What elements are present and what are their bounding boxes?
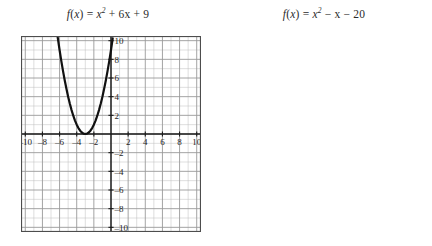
y-axis-tick-label: –6 xyxy=(114,185,125,195)
y-axis-tick-label: –2 xyxy=(114,148,124,158)
x-axis-tick-label: –10 xyxy=(21,137,33,147)
x-axis-tick-label: –4 xyxy=(71,137,82,147)
graph-panel-left: f(x) = x2 + 6x + 9 –10–8–6–4–22468101086… xyxy=(0,0,216,246)
panel-left-title-equals: = xyxy=(87,8,94,20)
y-axis-tick-label: –10 xyxy=(114,223,129,232)
y-axis-tick-label: –4 xyxy=(114,167,125,177)
y-axis-tick-label: 10 xyxy=(115,36,125,46)
graph-panel-right: f(x) = x2 − x − 20 –15–12–9–6–336912153–… xyxy=(216,0,432,246)
x-axis-tick-label: 6 xyxy=(160,137,165,147)
y-axis-tick-label: 2 xyxy=(115,111,120,121)
x-axis-tick-label: 8 xyxy=(177,137,182,147)
y-axis-tick-label: 4 xyxy=(115,92,120,102)
x-axis-tick-label: –8 xyxy=(37,137,48,147)
panel-left-title-term1-exp: 2 xyxy=(102,6,106,15)
panel-right-title-equals: = xyxy=(303,8,310,20)
panel-right-title-close: ) xyxy=(296,8,300,20)
x-axis-tick-label: 2 xyxy=(126,137,130,147)
x-axis-tick-label: –2 xyxy=(88,137,98,147)
x-axis-tick-label: 10 xyxy=(192,137,201,147)
panel-right-title: f(x) = x2 − x − 20 xyxy=(216,6,432,20)
panel-right-title-rest: − x − 20 xyxy=(325,8,365,20)
panel-right-title-term1-exp: 2 xyxy=(318,6,322,15)
x-axis-tick-label: –6 xyxy=(54,137,64,147)
y-axis-tick-label: –8 xyxy=(114,204,125,214)
quadratic-graphs-figure: f(x) = x2 + 6x + 9 –10–8–6–4–22468101086… xyxy=(0,0,432,246)
y-axis-tick-label: 6 xyxy=(115,73,120,83)
plot-svg-left: –10–8–6–4–2246810108642–2–4–6–8–10 xyxy=(21,36,201,232)
x-axis-tick-label: 4 xyxy=(143,137,148,147)
panel-left-title-rest: + 6x + 9 xyxy=(109,8,149,20)
plot-area-left: –10–8–6–4–2246810108642–2–4–6–8–10 xyxy=(21,36,201,232)
y-axis-tick-label: 8 xyxy=(115,55,120,65)
panel-left-title-close: ) xyxy=(80,8,84,20)
panel-left-title: f(x) = x2 + 6x + 9 xyxy=(0,6,216,20)
